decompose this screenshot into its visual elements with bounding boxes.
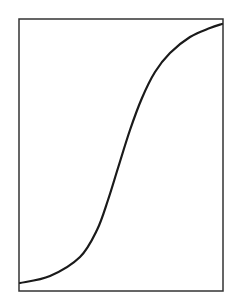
sigmoid-curve <box>20 24 222 283</box>
sigmoid-chart <box>0 0 245 306</box>
